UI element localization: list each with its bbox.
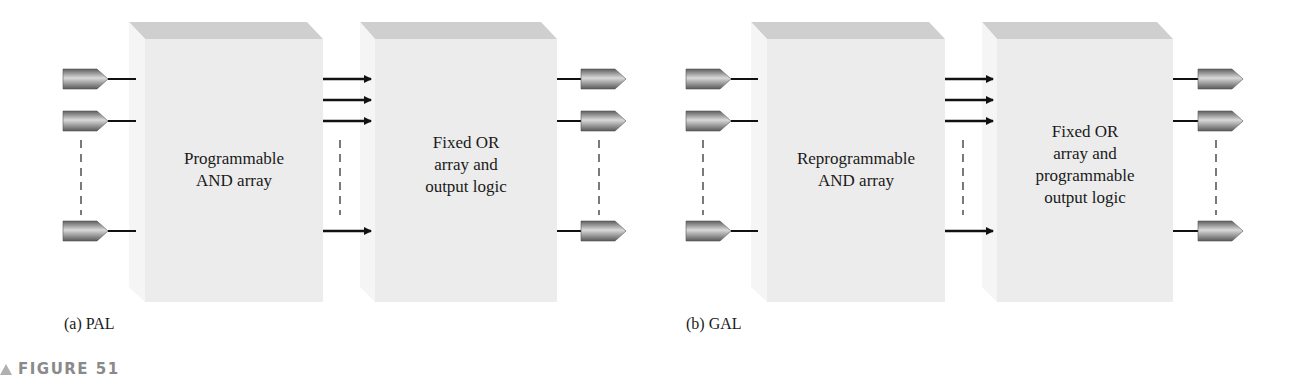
pal-output-pins — [557, 69, 626, 241]
gal-sub-caption: (b) GAL — [686, 315, 742, 333]
figure-caption: FIGURE 51 — [0, 360, 120, 378]
pal-or-array-label: Fixed OR array and output logic — [375, 132, 557, 198]
input-pin-icon — [63, 221, 108, 241]
input-pin-icon — [63, 69, 108, 89]
triangle-marker-icon — [0, 364, 12, 375]
output-pin-icon — [1198, 111, 1243, 131]
gal-input-pins — [686, 69, 758, 241]
pal-input-pins — [63, 69, 136, 241]
input-pin-icon — [686, 111, 731, 131]
pal-and-array-label: Programmable AND array — [145, 148, 323, 192]
gal-output-pins — [1173, 69, 1243, 241]
output-pin-icon — [581, 221, 626, 241]
input-pin-icon — [686, 69, 731, 89]
output-pin-icon — [581, 111, 626, 131]
output-pin-icon — [1198, 221, 1243, 241]
output-pin-icon — [1198, 69, 1243, 89]
input-pin-icon — [63, 111, 108, 131]
output-pin-icon — [581, 69, 626, 89]
pal-sub-caption: (a) PAL — [64, 315, 115, 333]
gal-and-array-label: Reprogrammable AND array — [767, 148, 945, 192]
figure-caption-text: FIGURE 51 — [18, 360, 120, 378]
gal-or-array-label: Fixed OR array and programmable output l… — [997, 121, 1173, 209]
input-pin-icon — [686, 221, 731, 241]
